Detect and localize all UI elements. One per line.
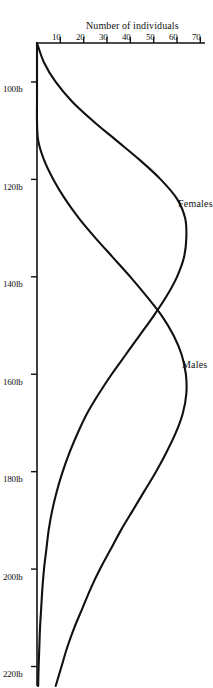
x-tick-label-200lb: 200lb xyxy=(3,573,23,582)
y-tick-label-20: 20 xyxy=(76,33,85,42)
y-tick-label-30: 30 xyxy=(99,33,108,42)
x-tick-label-120lb: 120lb xyxy=(3,183,23,192)
curve-males xyxy=(37,43,187,686)
series-label-males: Males xyxy=(182,360,207,370)
y-tick-label-10: 10 xyxy=(52,33,61,42)
curve-females xyxy=(37,43,186,686)
chart-plot-area xyxy=(0,0,209,688)
x-tick-label-220lb: 220lb xyxy=(3,670,23,679)
series-label-females: Females xyxy=(178,199,209,209)
y-tick-label-40: 40 xyxy=(122,33,131,42)
x-tick-label-160lb: 160lb xyxy=(3,378,23,387)
y-tick-label-50: 50 xyxy=(146,33,155,42)
y-tick-label-60: 60 xyxy=(169,33,178,42)
x-tick-label-180lb: 180lb xyxy=(3,475,23,484)
chart-figure: 100lb 120lb 140lb 160lb 180lb 200lb 220l… xyxy=(0,0,209,688)
y-axis-title: Number of individuals xyxy=(86,21,179,31)
x-tick-label-140lb: 140lb xyxy=(3,280,23,289)
x-tick-label-100lb: 100lb xyxy=(3,85,23,94)
x-axis-ticks xyxy=(31,82,37,667)
rotated-figure-wrapper: 100lb 120lb 140lb 160lb 180lb 200lb 220l… xyxy=(0,0,209,688)
y-tick-label-70: 70 xyxy=(192,33,201,42)
